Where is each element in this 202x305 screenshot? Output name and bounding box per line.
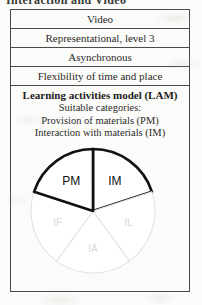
- table-row-label: Representational, level 3: [45, 33, 154, 44]
- table-row-label: Asynchronous: [68, 52, 132, 63]
- lam-line: Provision of materials (PM): [11, 115, 189, 128]
- pie-svg: IMILIAIFPM: [29, 143, 157, 277]
- table-row: Representational, level 3: [11, 29, 189, 48]
- lam-line: Interaction with materials (IM): [11, 127, 189, 140]
- pie-label-ia: IA: [88, 243, 98, 254]
- pie-label-il: IL: [124, 217, 133, 228]
- pie-label-if: IF: [53, 217, 62, 228]
- lam-line: Suitable categories:: [11, 102, 189, 115]
- pie-label-im: IM: [108, 174, 121, 188]
- table-row: Flexibility of time and place: [11, 67, 189, 86]
- table-row: Video: [11, 10, 189, 29]
- pie-label-pm: PM: [62, 174, 80, 188]
- lam-title: Learning activities model (LAM): [11, 89, 189, 102]
- lam-block: Learning activities model (LAM) Suitable…: [11, 86, 189, 140]
- table-row-label: Flexibility of time and place: [38, 71, 163, 82]
- lam-pie-chart: IMILIAIFPM: [29, 143, 157, 277]
- table-row: Asynchronous: [11, 48, 189, 67]
- clipped-caption-text: Interaction and Video: [6, 0, 156, 7]
- table-row-label: Video: [87, 14, 113, 25]
